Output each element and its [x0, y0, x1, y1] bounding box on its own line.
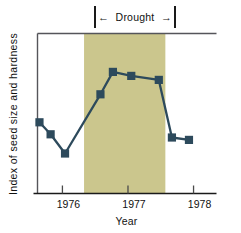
drought-shaded-region: [84, 34, 165, 194]
x-tick-label: 1978: [188, 198, 211, 210]
chart-figure: ← Drought → Index of seed size and hardn…: [0, 0, 241, 233]
x-axis-label: Year: [0, 215, 241, 227]
x-axis-label-text: Year: [115, 215, 137, 227]
x-axis-ticks: [62, 186, 193, 194]
y-axis-label: Index of seed size and hardness: [7, 24, 19, 204]
drought-label: Drought: [116, 12, 155, 23]
x-tick-label: 1977: [122, 198, 145, 210]
x-tick-label: 1976: [57, 198, 80, 210]
